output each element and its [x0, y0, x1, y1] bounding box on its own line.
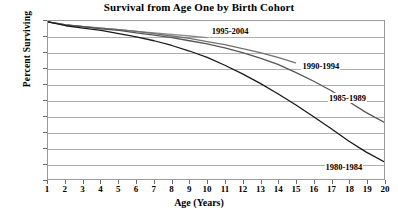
series-label-1990-1994: 1990-1994: [301, 61, 340, 71]
x-tick-mark: [296, 180, 297, 184]
x-tick-mark: [207, 180, 208, 184]
x-tick-label: 5: [109, 184, 127, 194]
x-tick-label: 11: [216, 184, 234, 194]
chart-title: Survival from Age One by Birth Cohort: [0, 1, 398, 13]
x-tick-label: 14: [269, 184, 287, 194]
x-tick-mark: [261, 180, 262, 184]
x-tick-label: 13: [252, 184, 270, 194]
x-tick-mark: [136, 180, 137, 184]
x-tick-mark: [172, 180, 173, 184]
x-tick-mark: [83, 180, 84, 184]
x-tick-mark: [349, 180, 350, 184]
x-tick-label: 9: [180, 184, 198, 194]
series-label-1985-1989: 1985-1989: [328, 93, 367, 103]
survival-chart: Survival from Age One by Birth Cohort Pe…: [0, 0, 398, 214]
x-tick-mark: [189, 180, 190, 184]
x-tick-label: 16: [305, 184, 323, 194]
x-tick-mark: [154, 180, 155, 184]
x-tick-mark: [118, 180, 119, 184]
x-axis-title: Age (Years): [0, 197, 398, 208]
x-tick-label: 19: [358, 184, 376, 194]
x-tick-mark: [314, 180, 315, 184]
y-axis-title: Percent Surviving: [22, 0, 32, 114]
x-tick-label: 12: [234, 184, 252, 194]
x-tick-mark: [47, 180, 48, 184]
series-label-1995-2004: 1995-2004: [211, 26, 250, 36]
x-tick-label: 1: [38, 184, 56, 194]
x-tick-mark: [278, 180, 279, 184]
x-tick-mark: [385, 180, 386, 184]
series-line: [48, 22, 384, 122]
x-tick-mark: [100, 180, 101, 184]
x-tick-label: 2: [56, 184, 74, 194]
x-tick-label: 7: [145, 184, 163, 194]
x-tick-label: 17: [323, 184, 341, 194]
x-tick-label: 8: [163, 184, 181, 194]
x-tick-label: 18: [340, 184, 358, 194]
x-tick-mark: [332, 180, 333, 184]
x-tick-mark: [65, 180, 66, 184]
x-tick-label: 15: [287, 184, 305, 194]
series-label-1980-1984: 1980-1984: [325, 162, 364, 172]
x-tick-mark: [243, 180, 244, 184]
x-tick-mark: [367, 180, 368, 184]
x-tick-label: 20: [376, 184, 394, 194]
x-tick-label: 3: [74, 184, 92, 194]
x-tick-label: 10: [198, 184, 216, 194]
x-tick-label: 4: [91, 184, 109, 194]
x-tick-mark: [225, 180, 226, 184]
x-tick-label: 6: [127, 184, 145, 194]
